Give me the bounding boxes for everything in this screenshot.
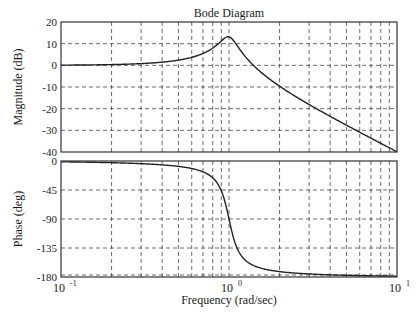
y-tick-label: 20 bbox=[46, 16, 58, 28]
y-tick-label: -90 bbox=[42, 213, 57, 225]
x-tick-exponent: -1 bbox=[70, 279, 77, 288]
y-tick-label: -10 bbox=[42, 81, 57, 93]
phase-y-ticks: 0-45-90-135-180 bbox=[37, 155, 58, 283]
chart-title: Bode Diagram bbox=[194, 6, 265, 20]
y-tick-label: -135 bbox=[37, 242, 58, 254]
x-axis-label: Frequency (rad/sec) bbox=[181, 293, 277, 307]
phase-panel: 0-45-90-135-180 Phase (deg) bbox=[11, 155, 397, 283]
y-tick-label: -20 bbox=[42, 103, 57, 115]
x-tick-exponent: 1 bbox=[406, 279, 410, 288]
phase-y-label: Phase (deg) bbox=[11, 191, 25, 247]
y-tick-label: -30 bbox=[42, 124, 57, 136]
bode-diagram: Bode Diagram 20100-10-20-30-40 Magnitude… bbox=[0, 0, 416, 320]
y-tick-label: 10 bbox=[46, 38, 58, 50]
magnitude-y-label: Magnitude (dB) bbox=[11, 49, 25, 126]
x-tick-label: 10 bbox=[389, 281, 401, 295]
y-tick-label: 0 bbox=[52, 155, 58, 167]
magnitude-panel: 20100-10-20-30-40 Magnitude (dB) bbox=[11, 16, 397, 158]
magnitude-y-ticks: 20100-10-20-30-40 bbox=[42, 16, 57, 158]
x-tick-exponent: 0 bbox=[238, 279, 242, 288]
y-tick-label: 0 bbox=[52, 59, 58, 71]
x-tick-label: 10 bbox=[53, 281, 65, 295]
magnitude-grid bbox=[61, 22, 397, 152]
y-tick-label: -45 bbox=[42, 184, 57, 196]
